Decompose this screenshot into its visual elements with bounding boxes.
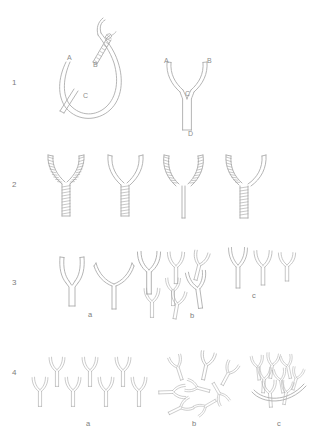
row4-panel-b bbox=[159, 350, 240, 419]
point-label-a-right: A bbox=[164, 57, 169, 64]
panel-label-4b: b bbox=[192, 420, 196, 428]
point-label-d-right: D bbox=[188, 130, 193, 137]
row1-left-panel bbox=[60, 18, 122, 118]
figure-canvas: 1 2 3 4 A B C A B C D a b c a b c bbox=[0, 0, 329, 443]
panel-label-3b: b bbox=[190, 312, 194, 320]
point-label-a-left: A bbox=[67, 54, 72, 61]
panel-label-3c: c bbox=[252, 292, 256, 300]
row2-panel-b bbox=[108, 155, 143, 216]
point-label-c-left: C bbox=[83, 92, 88, 99]
row4-panel-c bbox=[250, 352, 306, 407]
row4-panel-a bbox=[32, 357, 147, 406]
row3-panel-b bbox=[137, 250, 210, 320]
panel-label-3a: a bbox=[88, 311, 92, 319]
row2-panel-a bbox=[48, 155, 84, 216]
point-label-b-right: B bbox=[207, 57, 212, 64]
point-label-b-left: B bbox=[93, 61, 98, 68]
row-label-1: 1 bbox=[12, 79, 16, 87]
row3-panel-c bbox=[229, 247, 296, 288]
suture-knot-icon bbox=[105, 31, 116, 40]
panel-label-4c: c bbox=[277, 420, 281, 428]
row2-panel-d bbox=[226, 155, 266, 218]
row3-panel-a bbox=[60, 257, 134, 309]
panel-label-4a: a bbox=[86, 420, 90, 428]
row-label-3: 3 bbox=[12, 279, 16, 287]
figure-artwork bbox=[0, 0, 329, 443]
row-label-4: 4 bbox=[12, 369, 16, 377]
row2-panel-c bbox=[164, 155, 204, 218]
point-label-c-right: C bbox=[185, 90, 190, 97]
row-label-2: 2 bbox=[12, 181, 16, 189]
